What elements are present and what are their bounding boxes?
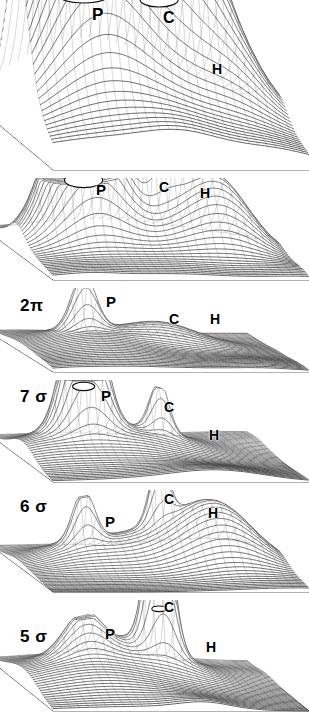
peak-label-p: P (105, 514, 115, 529)
peak-label-c: C (164, 492, 174, 506)
contour-level-label: 7 σ (20, 388, 47, 405)
mesh-rows (0, 0, 309, 170)
contour-level-label: 2π (20, 297, 43, 314)
surface-panel: PCH (0, 0, 309, 178)
surface-mesh (0, 600, 309, 719)
peak-label-h: H (200, 186, 210, 200)
contour-level-label: 6 σ (20, 498, 47, 515)
mesh-rows (0, 178, 309, 280)
surface-panel: PCH (0, 600, 309, 719)
surface-mesh (0, 178, 309, 288)
peak-label-c: C (159, 180, 169, 194)
peak-label-h: H (208, 506, 218, 520)
surface-panel: PCH (0, 178, 309, 288)
peak-label-p: P (105, 626, 115, 641)
peak-flat-top (73, 382, 95, 390)
peak-label-h: H (212, 62, 222, 76)
mesh-rows (0, 288, 309, 372)
peak-label-c: C (164, 600, 174, 614)
peak-label-c: C (163, 10, 175, 26)
peak-label-c: C (169, 312, 179, 326)
peak-label-p: P (96, 182, 106, 197)
surface-mesh (0, 0, 309, 178)
figure-3d-surface-panels: PCHPCHPCHPCHPCHPCH2π7 σ6 σ5 σ (0, 0, 309, 719)
peak-label-h: H (206, 640, 216, 654)
peak-label-p: P (92, 6, 103, 23)
surface-mesh (0, 288, 309, 380)
contour-level-label: 5 σ (20, 628, 47, 645)
peak-label-p: P (106, 294, 116, 309)
peak-label-p: P (101, 388, 111, 403)
peak-label-h: H (210, 312, 220, 326)
surface-panel: PCH (0, 288, 309, 380)
mesh-rows (0, 600, 309, 711)
peak-label-h: H (209, 428, 219, 442)
peak-label-c: C (164, 400, 174, 414)
